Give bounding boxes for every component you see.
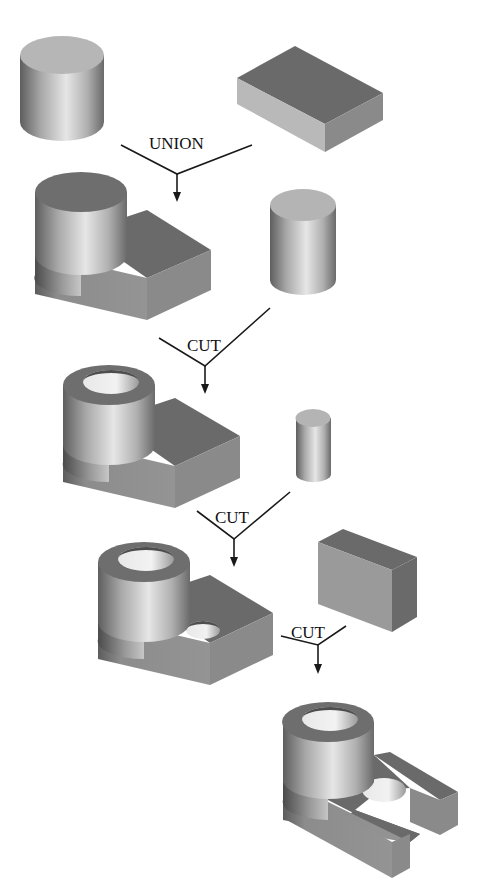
box-tool-shape bbox=[318, 529, 417, 632]
slotted-bracket-shape bbox=[282, 702, 458, 878]
cylinder-with-plate-shape bbox=[34, 172, 211, 320]
op-label-cut-1: CUT bbox=[187, 336, 222, 355]
cut-connector-1: CUT bbox=[159, 308, 270, 394]
cut-connector-3: CUT bbox=[281, 623, 346, 674]
small-cylinder-tool-shape bbox=[296, 409, 332, 482]
cylinder-tool-shape bbox=[270, 189, 336, 295]
union-connector: UNION bbox=[121, 134, 252, 202]
box-shape bbox=[237, 46, 383, 152]
cut-connector-2: CUT bbox=[197, 492, 290, 567]
csg-diagram: UNION CUT bbox=[0, 0, 490, 881]
op-label-union: UNION bbox=[149, 134, 204, 153]
bored-boss-with-plate-shape bbox=[63, 365, 240, 508]
op-label-cut-2: CUT bbox=[215, 508, 250, 527]
plate-with-hole-shape bbox=[98, 542, 273, 685]
cylinder-shape bbox=[20, 36, 104, 141]
op-label-cut-3: CUT bbox=[291, 623, 326, 642]
